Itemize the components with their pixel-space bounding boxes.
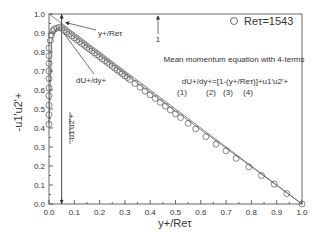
data-point (193, 126, 199, 132)
term-label-2: (2) (206, 88, 216, 97)
x-tick-label: 0.5 (170, 208, 182, 217)
y-tick-label: 0.6 (34, 86, 46, 95)
data-point (185, 120, 191, 126)
data-point (178, 115, 184, 121)
y-tick-label: 0.1 (34, 181, 46, 190)
y-tick-label: 0.3 (34, 143, 46, 152)
x-tick-label: 0.0 (43, 208, 55, 217)
x-tick-label: 0.1 (69, 208, 81, 217)
term-label-1: (1) (177, 88, 187, 97)
y-axis-title: -u1'u2'+ (12, 93, 24, 132)
data-point (271, 181, 277, 187)
y-tick-label: 0.4 (34, 124, 46, 133)
y-tick-label: 0.9 (34, 29, 46, 38)
legend-marker (231, 18, 238, 25)
y-tick-label: 0.2 (34, 162, 46, 171)
y-tick-label: 0.8 (34, 48, 46, 57)
data-point (284, 191, 290, 197)
annotations (62, 15, 158, 203)
annotation-y-over-re: y+/Reτ (98, 29, 123, 38)
term-label-4: (4) (243, 88, 253, 97)
annotation-stress: -u1'u2'+ (67, 114, 76, 143)
annotation-one: 1 (156, 35, 161, 44)
lines (49, 14, 302, 204)
x-tick-label: 0.7 (221, 208, 233, 217)
y-tick-label: 1.0 (34, 10, 46, 19)
equation-title: Mean momentum equation with 4-terms (164, 55, 305, 64)
x-tick-label: 0.9 (271, 208, 283, 217)
annotation-du-dy: dU+/dy+ (76, 76, 107, 85)
equation: dU+/dy+=[1-(y+/Reτ)]+u1'u2'+ (182, 77, 289, 86)
data-point (167, 107, 173, 113)
x-tick-label: 0.6 (195, 208, 207, 217)
x-tick-label: 0.2 (94, 208, 106, 217)
x-axis-title: y+/Reτ (158, 217, 192, 229)
y-tick-label: 0.7 (34, 67, 46, 76)
data-point (233, 155, 239, 161)
data-points (46, 24, 305, 207)
y-tick-label: 0.5 (34, 105, 46, 114)
x-tick-label: 0.8 (246, 208, 258, 217)
x-axis: 0.00.10.20.30.40.50.60.70.80.91.0 (43, 200, 308, 217)
x-tick-label: 1.0 (296, 208, 308, 217)
total-stress-line (49, 14, 302, 204)
y-tick-label: 0.0 (34, 200, 46, 209)
arrow-du-dy (64, 33, 94, 74)
data-point (203, 134, 209, 140)
y-axis: 0.00.10.20.30.40.50.60.70.80.91.0 (34, 10, 53, 209)
arrow-y-over-re (66, 23, 96, 30)
term-label-3: (3) (223, 88, 233, 97)
data-point (213, 141, 219, 147)
x-tick-label: 0.4 (145, 208, 157, 217)
x-tick-label: 0.3 (119, 208, 131, 217)
legend-label: Reτ=1543 (244, 15, 293, 27)
chart: 0.00.10.20.30.40.50.60.70.80.91.0 0.00.1… (0, 0, 318, 245)
data-point (173, 111, 179, 117)
